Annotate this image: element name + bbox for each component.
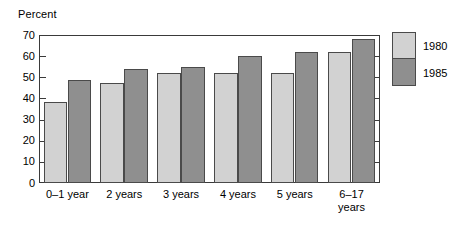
y-axis-title: Percent [18, 8, 57, 20]
legend-swatch-1980 [393, 33, 415, 59]
bar-group [39, 35, 96, 183]
bar-1985 [181, 67, 205, 183]
legend-swatch-1985 [393, 59, 415, 85]
bar-1985 [68, 80, 92, 183]
bar-1985 [295, 52, 319, 183]
x-tick-label: 0–1 year [39, 188, 96, 201]
y-tick-label: 0 [13, 178, 35, 189]
x-tick-label: 6–17years [323, 188, 380, 214]
bar-1980 [157, 73, 181, 183]
bar-group [96, 35, 153, 183]
y-tick-label: 60 [13, 51, 35, 62]
x-tick-label: 2 years [96, 188, 153, 201]
y-axis-tick-labels: 010203040506070 [11, 35, 35, 183]
x-tick-label-line: 6–17 [323, 188, 380, 201]
y-tick-label: 40 [13, 93, 35, 104]
legend-label-1980: 1980 [423, 41, 447, 52]
bar-1980 [100, 83, 124, 183]
x-tick-label-line: years [323, 201, 380, 214]
bar-group [210, 35, 267, 183]
x-tick-label-line: 3 years [153, 188, 210, 201]
bar-1980 [271, 73, 295, 183]
legend-label-1985: 1985 [423, 68, 447, 79]
bar-1980 [214, 73, 238, 183]
x-tick-label: 3 years [153, 188, 210, 201]
x-tick-label: 5 years [266, 188, 323, 201]
y-tick-label: 20 [13, 135, 35, 146]
y-tick-label: 30 [13, 114, 35, 125]
bar-1985 [238, 56, 262, 183]
bar-chart: Percent 010203040506070 0–1 year2 years3… [0, 0, 459, 236]
bars-layer [39, 35, 380, 183]
bar-1980 [328, 52, 352, 183]
legend: 1980 1985 [392, 32, 456, 86]
legend-swatch-box [392, 32, 416, 86]
x-tick-label-line: 5 years [266, 188, 323, 201]
y-tick-label: 70 [13, 30, 35, 41]
x-axis-tick-labels: 0–1 year2 years3 years4 years5 years6–17… [39, 188, 380, 234]
bar-1980 [44, 102, 68, 183]
bar-group [153, 35, 210, 183]
x-tick-label: 4 years [210, 188, 267, 201]
bar-group [266, 35, 323, 183]
x-tick-label-line: 0–1 year [39, 188, 96, 201]
bar-group [323, 35, 380, 183]
bar-1985 [124, 69, 148, 183]
x-tick-label-line: 4 years [210, 188, 267, 201]
y-tick-label: 50 [13, 72, 35, 83]
y-tick-label: 10 [13, 156, 35, 167]
bar-1985 [352, 39, 376, 183]
x-tick-label-line: 2 years [96, 188, 153, 201]
